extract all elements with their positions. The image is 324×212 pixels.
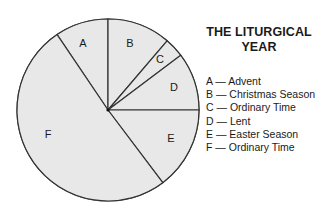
legend-item-e: E — Easter Season [206,128,315,141]
slice-label-f: F [45,128,52,140]
slice-label-e: E [167,132,174,144]
chart-title-line-1: THE LITURGICAL [203,25,315,40]
chart-title: THE LITURGICAL YEAR [203,25,315,55]
pie-chart: ABCDEF [0,0,210,212]
chart-title-line-2: YEAR [203,40,315,55]
legend-item-f: F — Ordinary Time [206,141,315,154]
slice-label-b: B [126,37,133,49]
legend-item-b: B — Christmas Season [206,88,315,101]
legend-item-d: D — Lent [206,115,315,128]
legend: A — Advent B — Christmas Season C — Ordi… [206,75,315,154]
legend-item-a: A — Advent [206,75,315,88]
slice-label-c: C [156,53,164,65]
slice-label-d: D [170,81,178,93]
slice-label-a: A [79,37,87,49]
legend-item-c: C — Ordinary Time [206,101,315,114]
pie-center-dot [106,108,109,111]
